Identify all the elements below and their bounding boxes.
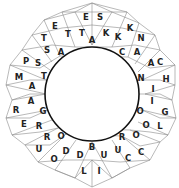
- letter-cell[interactable]: I: [147, 83, 159, 95]
- letter-cell[interactable]: D: [60, 145, 72, 157]
- letter-cell[interactable]: C: [116, 46, 128, 58]
- letter-cell[interactable]: R: [116, 131, 128, 143]
- letter-cell[interactable]: O: [130, 129, 142, 141]
- inner-ring: [45, 47, 139, 141]
- letter-cell[interactable]: K: [112, 31, 124, 43]
- letter-cell[interactable]: B: [86, 141, 98, 153]
- letter-cell[interactable]: G: [159, 106, 171, 118]
- letter-cell[interactable]: S: [94, 11, 106, 23]
- letter-cell[interactable]: S: [32, 57, 44, 69]
- letter-cell[interactable]: O: [134, 105, 146, 117]
- letter-cell[interactable]: A: [55, 46, 67, 58]
- letter-cell[interactable]: A: [25, 95, 37, 107]
- letter-cell[interactable]: C: [135, 146, 147, 158]
- letter-cell[interactable]: O: [55, 130, 67, 142]
- letter-cell[interactable]: L: [154, 120, 166, 132]
- letter-cell[interactable]: E: [18, 118, 30, 130]
- letter-cell[interactable]: I: [146, 95, 158, 107]
- letter-cell[interactable]: H: [160, 73, 172, 85]
- letter-cell[interactable]: C: [154, 56, 166, 68]
- letter-cell[interactable]: N: [135, 72, 147, 84]
- letter-cell[interactable]: E: [80, 11, 92, 23]
- letter-cell[interactable]: D: [74, 149, 86, 161]
- letter-cell[interactable]: C: [122, 152, 134, 164]
- letter-cell[interactable]: I: [93, 165, 105, 177]
- letter-cell[interactable]: A: [26, 80, 38, 92]
- letter-cell[interactable]: U: [33, 143, 45, 155]
- letter-cell[interactable]: L: [78, 165, 90, 177]
- letter-cell[interactable]: T: [62, 28, 74, 40]
- letter-cell[interactable]: N: [135, 32, 147, 44]
- letter-cell[interactable]: P: [20, 55, 32, 67]
- letter-cell[interactable]: U: [98, 149, 110, 161]
- letter-cell[interactable]: T: [38, 70, 50, 82]
- letter-cell[interactable]: R: [10, 104, 22, 116]
- letter-cell[interactable]: R: [41, 131, 53, 143]
- letter-cell[interactable]: E: [49, 20, 61, 32]
- letter-cell[interactable]: A: [86, 34, 98, 46]
- puzzle-board: ESETTAKKKNTSACAPSACMTNHAIAIRGOGEROLROROB…: [0, 0, 179, 188]
- letter-cell[interactable]: S: [41, 44, 53, 56]
- letter-cell[interactable]: A: [131, 46, 143, 58]
- letter-cell[interactable]: K: [100, 27, 112, 39]
- letter-cell[interactable]: G: [37, 105, 49, 117]
- letter-cell[interactable]: M: [13, 71, 25, 83]
- letter-cell[interactable]: O: [48, 153, 60, 165]
- letter-cell[interactable]: T: [38, 32, 50, 44]
